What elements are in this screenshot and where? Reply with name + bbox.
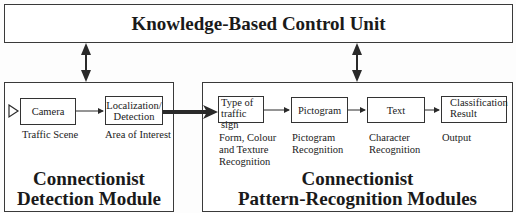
connector-arrows xyxy=(0,0,516,213)
input-triangle-icon xyxy=(9,105,18,117)
bidirectional-arrow-right xyxy=(352,43,362,82)
bidirectional-arrow-left xyxy=(81,43,91,82)
